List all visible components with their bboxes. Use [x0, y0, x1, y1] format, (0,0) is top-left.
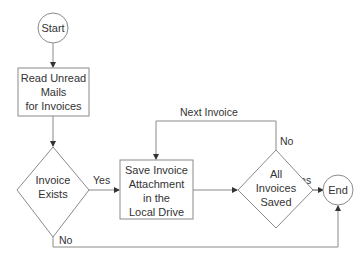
- save-line-2: Attachment: [129, 178, 185, 190]
- read-mails-line-3: for Invoices: [25, 100, 82, 112]
- all-saved-line-2: Invoices: [256, 182, 297, 194]
- invoice-exists-decision: Invoice Exists: [17, 147, 89, 237]
- flowchart-canvas: Yes No Next Invoice Yes No Start Read Un…: [0, 0, 363, 262]
- save-line-1: Save Invoice: [125, 164, 188, 176]
- end-label: End: [328, 184, 348, 196]
- end-node: End: [323, 175, 353, 205]
- invoice-exists-line-1: Invoice: [36, 174, 71, 186]
- save-line-4: Local Drive: [129, 206, 184, 218]
- save-line-3: in the: [143, 192, 170, 204]
- edge-exists-no: No: [53, 206, 338, 247]
- read-mails-line-2: Mails: [41, 86, 67, 98]
- start-label: Start: [41, 22, 64, 34]
- all-saved-line-1: All: [270, 168, 282, 180]
- yes-label-exists: Yes: [93, 174, 110, 186]
- no-label-all-saved: No: [280, 135, 294, 147]
- invoice-exists-line-2: Exists: [38, 188, 68, 200]
- all-saved-decision: All Invoices Saved: [238, 150, 313, 228]
- edge-exists-yes: Yes: [89, 174, 119, 190]
- read-mails-line-1: Read Unread: [21, 72, 86, 84]
- no-label-exists: No: [59, 234, 73, 246]
- read-mails-node: Read Unread Mails for Invoices: [18, 68, 89, 116]
- edge-all-no-next-invoice: No Next Invoice: [156, 106, 294, 159]
- save-attachment-node: Save Invoice Attachment in the Local Dri…: [120, 160, 193, 219]
- next-invoice-label: Next Invoice: [180, 106, 238, 118]
- all-saved-line-3: Saved: [260, 196, 291, 208]
- start-node: Start: [38, 13, 68, 43]
